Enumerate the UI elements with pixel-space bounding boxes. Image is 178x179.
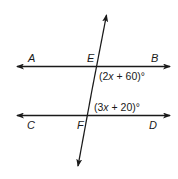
- point-label-b: B: [151, 52, 158, 64]
- point-label-a: A: [27, 52, 35, 64]
- angle-label-e: (2x + 60)°: [99, 70, 145, 82]
- point-label-c: C: [27, 119, 35, 131]
- point-label-f: F: [77, 119, 85, 131]
- transversal-line: [78, 15, 107, 166]
- parallel-lines-diagram: A E B C F D (2x + 60)° (3x + 20)°: [0, 0, 178, 179]
- point-label-d: D: [149, 119, 157, 131]
- point-label-e: E: [87, 52, 95, 64]
- angle-label-f: (3x + 20)°: [94, 101, 140, 113]
